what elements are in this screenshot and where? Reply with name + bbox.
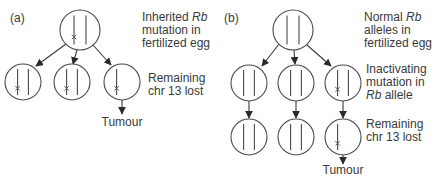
tumour-label: Tumour — [102, 115, 143, 129]
cell-b-5 — [278, 119, 314, 155]
cell-circle — [231, 119, 267, 155]
arrow-icon — [73, 50, 77, 64]
panel-label: (a) — [10, 11, 25, 25]
cell-a-2 — [54, 64, 90, 100]
annotation-text: Remainingchr 13 lost — [148, 71, 205, 98]
cell-b-2 — [278, 65, 314, 101]
cell-circle — [54, 64, 90, 100]
arrow-icon — [93, 45, 111, 65]
annotation-text: Inherited Rbmutation infertilized egg — [142, 10, 210, 50]
arrow-icon — [262, 44, 279, 66]
cell-circle — [60, 10, 100, 50]
cell-circle — [325, 65, 361, 101]
cell-a-egg — [60, 10, 100, 50]
panel-label: (b) — [224, 11, 239, 25]
rb-two-hit-diagram: (a)Inherited Rbmutation infertilized egg… — [0, 0, 436, 176]
cell-circle — [278, 65, 314, 101]
cell-a-1 — [5, 64, 41, 100]
panel-b: (b)Normal Rballeles infertilized eggInac… — [224, 10, 432, 176]
cell-circle — [273, 10, 313, 50]
cell-b-3 — [325, 65, 361, 101]
arrow-icon — [36, 44, 66, 66]
annotation-text: Remainingchr 13 lost — [366, 117, 423, 144]
cell-b-6 — [325, 119, 361, 155]
cell-circle — [231, 65, 267, 101]
arrow-icon — [294, 50, 295, 64]
cell-circle — [325, 119, 361, 155]
arrow-icon — [307, 45, 331, 66]
cell-circle — [278, 119, 314, 155]
tumour-label: Tumour — [323, 163, 364, 176]
annotation-text: Normal Rballeles infertilized egg — [364, 10, 432, 50]
cell-circle — [104, 64, 140, 100]
cell-b-egg — [273, 10, 313, 50]
cell-a-3 — [104, 64, 140, 100]
cell-b-4 — [231, 119, 267, 155]
cell-b-1 — [231, 65, 267, 101]
panel-a: (a)Inherited Rbmutation infertilized egg… — [5, 10, 210, 129]
cell-circle — [5, 64, 41, 100]
annotation-text: Inactivatingmutation inRb allele — [366, 62, 427, 102]
